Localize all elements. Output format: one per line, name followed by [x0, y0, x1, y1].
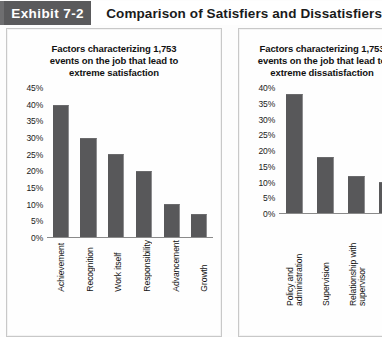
y-tick-label: 45% [27, 83, 43, 93]
exhibit-tag: Exhibit 7-2 [0, 1, 91, 25]
bar-slot [279, 88, 310, 213]
y-tick-label: 35% [259, 99, 275, 109]
y-tick-label: 25% [27, 150, 43, 160]
satisfiers-title-line-1: Factors characterizing 1,753 [15, 43, 213, 55]
x-label-slot: Policy and administration [279, 216, 311, 306]
bar-slot [47, 88, 75, 237]
bar-slot [341, 88, 372, 213]
x-label-slot: Advancement [162, 240, 191, 292]
x-tick-label: Recognition [86, 240, 95, 292]
bar [191, 214, 207, 237]
exhibit-header: Exhibit 7-2 Comparison of Satisfiers and… [0, 1, 382, 25]
exhibit-number-label: Exhibit 7-2 [11, 6, 84, 21]
x-label-slot: Growth [190, 240, 219, 292]
bar-slot [75, 88, 103, 237]
x-label-slot: Supervision [311, 216, 343, 306]
bar-slot [372, 88, 382, 213]
dissatisfiers-title-line-1: Factors characterizing 1,753 [243, 43, 382, 55]
exhibit-title-container: Comparison of Satisfiers and Dissatisfie… [91, 1, 382, 25]
exhibit-title: Comparison of Satisfiers and Dissatisfie… [106, 6, 382, 21]
y-tick-label: 15% [27, 183, 43, 193]
bar [53, 105, 69, 237]
bar [317, 157, 335, 213]
x-tick-label: Achievement [57, 240, 66, 292]
bar [80, 138, 96, 237]
satisfiers-bars-area [47, 88, 213, 238]
x-label-slot: Achievement [47, 240, 76, 292]
y-tick-label: 10% [259, 178, 275, 188]
satisfiers-x-axis: AchievementRecognitionWork itselfRespons… [47, 240, 219, 292]
x-label-slot: Work itself [104, 240, 133, 292]
dissatisfiers-bars-area [279, 88, 382, 214]
y-tick-label: 35% [27, 116, 43, 126]
x-tick-label: Growth [200, 240, 209, 292]
x-label-slot [374, 216, 382, 306]
dissatisfiers-x-axis: Policy and administrationSupervisionRela… [279, 216, 382, 306]
charts-container: Factors characterizing 1,753 events on t… [0, 28, 382, 337]
y-tick-label: 0% [31, 233, 43, 243]
bar [348, 176, 366, 214]
y-tick-label: 40% [259, 83, 275, 93]
satisfiers-chart-title: Factors characterizing 1,753 events on t… [7, 29, 221, 79]
x-tick-label: Responsibility [143, 240, 152, 292]
x-label-slot: Relationship with supervisor [342, 216, 374, 306]
x-label-slot: Responsibility [133, 240, 162, 292]
dissatisfiers-bars [279, 88, 382, 213]
satisfiers-plot-area: 45%40%35%30%25%20%15%10%5%0% [11, 88, 215, 238]
dissatisfiers-y-axis: 40%35%30%25%20%15%10%5%0% [243, 88, 277, 214]
dissatisfiers-title-line-2: events on the job that lead to [243, 55, 382, 67]
x-tick-label: Work itself [114, 240, 123, 292]
bar [286, 94, 304, 213]
dissatisfiers-plot-area: 40%35%30%25%20%15%10%5%0% [243, 88, 382, 214]
x-tick-label: Supervision [322, 216, 331, 306]
y-tick-label: 30% [27, 133, 43, 143]
bar [108, 154, 124, 237]
x-tick-label: Relationship with supervisor [349, 216, 367, 306]
x-label-slot: Recognition [76, 240, 105, 292]
bar-slot [130, 88, 158, 237]
bar-slot [185, 88, 213, 237]
bar [136, 171, 152, 237]
y-tick-label: 5% [31, 216, 43, 226]
dissatisfiers-chart-title: Factors characterizing 1,753 events on t… [239, 29, 382, 79]
bar [164, 204, 180, 237]
y-tick-label: 20% [259, 146, 275, 156]
x-tick-label: Advancement [172, 240, 181, 292]
bar-slot [310, 88, 341, 213]
y-tick-label: 5% [263, 193, 275, 203]
satisfiers-title-line-3: extreme satisfaction [15, 67, 213, 79]
bar [379, 182, 382, 213]
satisfiers-chart-panel: Factors characterizing 1,753 events on t… [6, 28, 222, 337]
y-tick-label: 20% [27, 166, 43, 176]
satisfiers-y-axis: 45%40%35%30%25%20%15%10%5%0% [11, 88, 45, 238]
y-tick-label: 25% [259, 130, 275, 140]
y-tick-label: 0% [263, 209, 275, 219]
x-tick-label: Policy and administration [286, 216, 304, 306]
bar-slot [102, 88, 130, 237]
dissatisfiers-title-line-3: extreme dissatisfaction [243, 67, 382, 79]
satisfiers-title-line-2: events on the job that lead to [15, 55, 213, 67]
satisfiers-bars [47, 88, 213, 237]
y-tick-label: 10% [27, 200, 43, 210]
dissatisfiers-chart-panel: Factors characterizing 1,753 events on t… [238, 28, 382, 337]
y-tick-label: 40% [27, 100, 43, 110]
y-tick-label: 15% [259, 162, 275, 172]
exhibit-figure: Exhibit 7-2 Comparison of Satisfiers and… [0, 0, 382, 337]
y-tick-label: 30% [259, 115, 275, 125]
bar-slot [158, 88, 186, 237]
